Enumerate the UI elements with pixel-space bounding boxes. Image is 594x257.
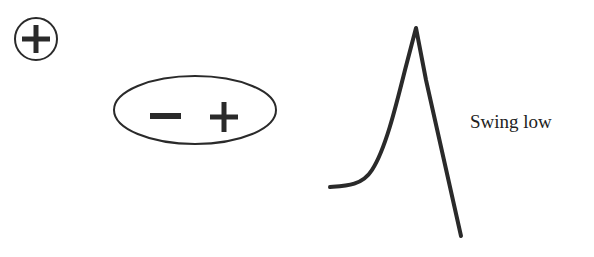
plus-sign-icon bbox=[210, 102, 238, 132]
swing-low-label: Swing low bbox=[470, 111, 552, 133]
swing-waveform bbox=[330, 28, 461, 236]
positive-charge-icon bbox=[15, 18, 57, 60]
dipole-ellipse bbox=[114, 76, 276, 144]
